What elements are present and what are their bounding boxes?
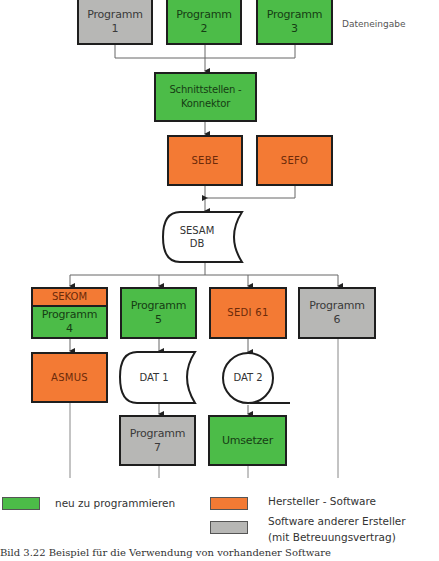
sedi-61-label: SEDI 61 [227, 306, 268, 320]
programm-2-number: 2 [201, 22, 208, 36]
sekom-label: SEKOM [33, 289, 106, 307]
programm-2-box: Programm 2 [166, 0, 242, 45]
programm-4-number: 4 [33, 322, 106, 336]
programm-3-box: Programm 3 [256, 0, 333, 45]
legend-swatch-gray [210, 521, 248, 534]
sefo-label: SEFO [281, 154, 309, 168]
umsetzer-label: Umsetzer [222, 434, 273, 448]
sekom-programm-4-box: SEKOM Programm 4 [31, 287, 108, 339]
programm-1-number: 1 [112, 22, 119, 36]
programm-5-number: 5 [155, 313, 162, 327]
asmus-label: ASMUS [51, 371, 88, 385]
sesam-db-label: SESAM DB [166, 224, 228, 250]
legend-label-manufacturer: Hersteller - Software [268, 494, 376, 509]
connector-line-2: Konnektor [181, 97, 230, 111]
programm-2-label: Programm [176, 8, 232, 22]
programm-7-box: Programm 7 [119, 415, 196, 466]
programm-6-number: 6 [334, 313, 341, 327]
dat-2-label: DAT 2 [223, 371, 273, 384]
legend-label-other-note: (mit Betreuungsvertrag) [268, 530, 396, 545]
programm-3-number: 3 [291, 22, 298, 36]
sebe-label: SEBE [191, 154, 218, 168]
programm-3-label: Programm [267, 8, 323, 22]
programm-7-label: Programm [130, 427, 186, 441]
programm-1-label: Programm [87, 8, 143, 22]
legend-label-other: Software anderer Ersteller [268, 514, 406, 529]
asmus-box: ASMUS [31, 352, 108, 403]
sesam-line-2: DB [166, 237, 228, 250]
programm-1-box: Programm 1 [77, 0, 153, 45]
schnittstellen-konnektor-box: Schnittstellen - Konnektor [154, 72, 257, 122]
programm-5-box: Programm 5 [120, 287, 197, 339]
dat-1-label: DAT 1 [124, 371, 184, 384]
sedi-61-box: SEDI 61 [209, 287, 287, 339]
software-usage-diagram: Dateneingabe Programm 1 Programm 2 Progr… [0, 0, 439, 561]
programm-7-number: 7 [154, 441, 161, 455]
sefo-box: SEFO [256, 135, 333, 186]
legend-label-new: neu zu programmieren [55, 496, 175, 511]
connector-line-1: Schnittstellen - [169, 83, 241, 97]
sebe-box: SEBE [167, 135, 243, 186]
umsetzer-box: Umsetzer [208, 415, 287, 466]
programm-5-label: Programm [131, 299, 187, 313]
programm-6-label: Programm [309, 299, 365, 313]
legend-swatch-orange [210, 497, 248, 510]
legend-swatch-green [2, 497, 40, 510]
programm-4-label: Programm [33, 308, 106, 322]
programm-4-section: Programm 4 [33, 307, 106, 337]
sesam-line-1: SESAM [166, 224, 228, 237]
dateneingabe-label: Dateneingabe [342, 19, 405, 29]
figure-caption: Bild 3.22 Beispiel für die Verwendung vo… [0, 547, 331, 558]
programm-6-box: Programm 6 [298, 287, 376, 339]
